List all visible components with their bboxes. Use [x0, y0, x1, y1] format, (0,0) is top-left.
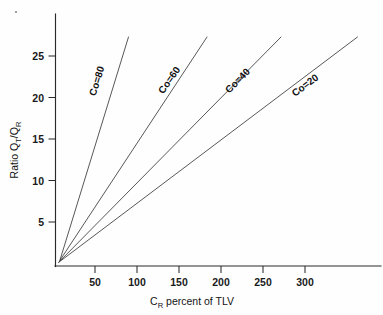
ratio-chart-svg: 25 20 15 10 5 50 100 150 200 250 300 CR … — [0, 0, 383, 315]
chart-background — [0, 0, 383, 315]
y-axis-title-sub2: R — [14, 121, 23, 127]
x-tick-label-100: 100 — [128, 276, 146, 288]
y-tick-label-10: 10 — [32, 175, 44, 187]
y-axis-title-mid: /Q — [8, 127, 20, 138]
scan-speck — [15, 11, 17, 13]
x-tick-label-250: 250 — [254, 276, 272, 288]
x-tick-label-50: 50 — [89, 276, 101, 288]
y-tick-label-5: 5 — [38, 216, 44, 228]
y-axis-title-prefix: Ratio Q — [8, 143, 20, 179]
y-tick-label-25: 25 — [32, 50, 44, 62]
x-tick-label-300: 300 — [296, 276, 314, 288]
x-tick-label-150: 150 — [170, 276, 188, 288]
x-tick-label-200: 200 — [212, 276, 230, 288]
y-tick-label-15: 15 — [32, 133, 44, 145]
y-tick-label-20: 20 — [32, 92, 44, 104]
chart-figure: 25 20 15 10 5 50 100 150 200 250 300 CR … — [0, 0, 383, 315]
x-axis-title-text: percent of TLV — [166, 295, 234, 307]
